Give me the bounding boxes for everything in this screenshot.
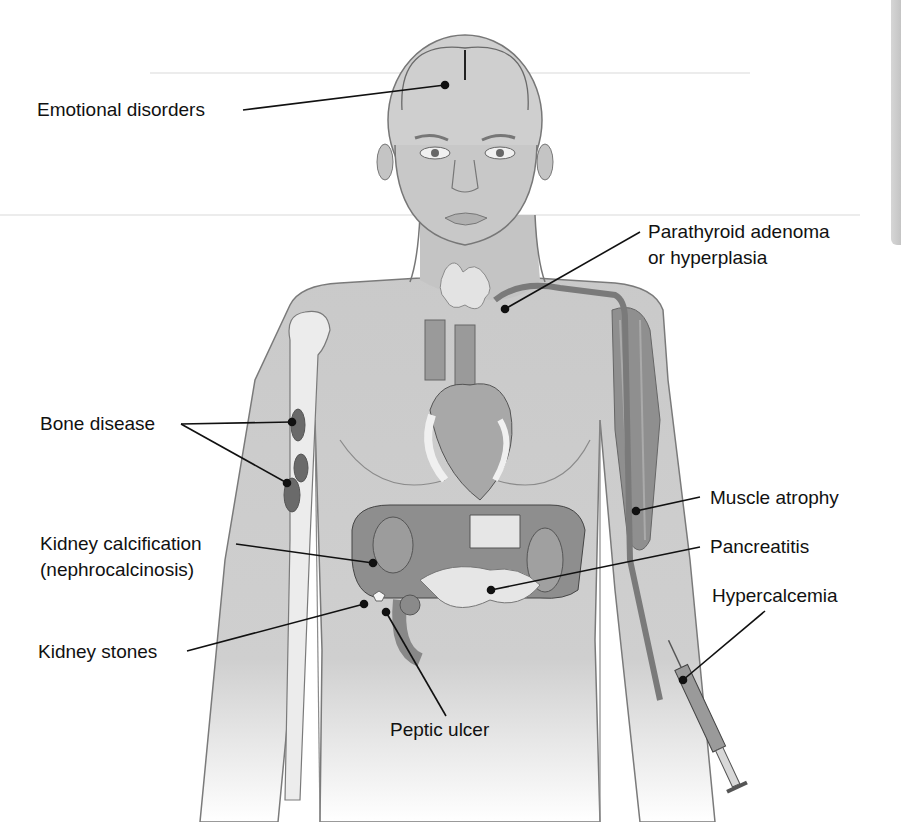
label-hypercalcemia: Hypercalcemia: [712, 584, 838, 608]
label-kidney-calcification-line1: Kidney calcification: [40, 532, 202, 556]
label-muscle-atrophy: Muscle atrophy: [710, 486, 839, 510]
label-parathyroid-line2: or hyperplasia: [648, 246, 767, 270]
label-kidney-stones: Kidney stones: [38, 640, 157, 664]
label-emotional-disorders: Emotional disorders: [37, 98, 205, 122]
label-parathyroid-line1: Parathyroid adenoma: [648, 220, 830, 244]
diagram-stage: Emotional disorders Parathyroid adenoma …: [0, 0, 901, 822]
label-peptic-ulcer: Peptic ulcer: [390, 718, 489, 742]
body-illustration: [0, 0, 901, 822]
label-pancreatitis: Pancreatitis: [710, 535, 809, 559]
label-bone-disease: Bone disease: [40, 412, 155, 436]
head: [377, 35, 553, 245]
label-kidney-calcification-line2: (nephrocalcinosis): [40, 558, 194, 582]
